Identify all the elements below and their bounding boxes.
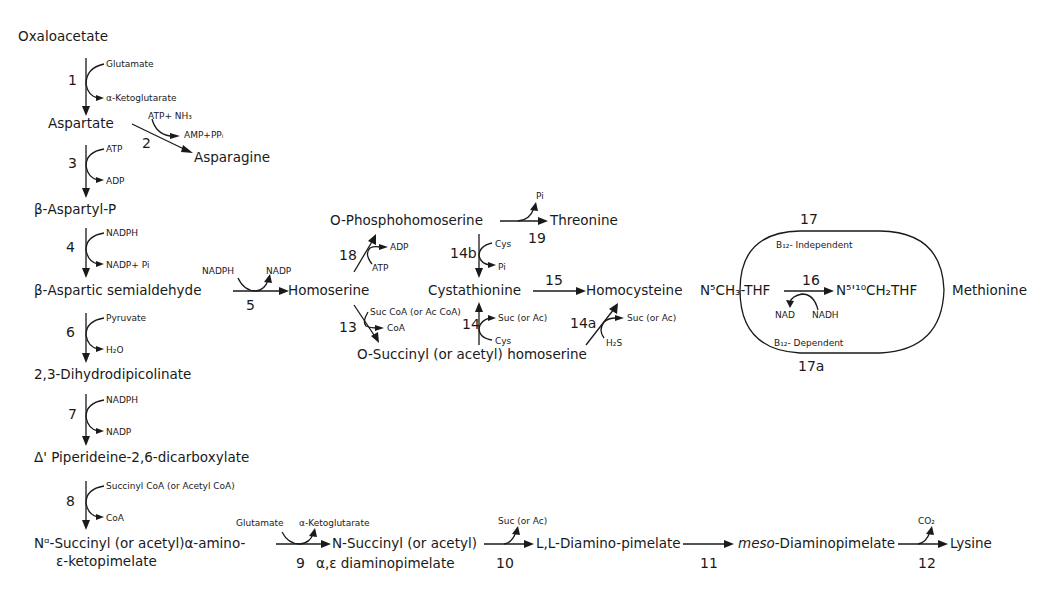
cofactor-pi-19: Pi [536, 191, 544, 201]
cofactor-suc-ac-14: Suc (or Ac) [498, 313, 547, 323]
reaction-number-16: 16 [802, 272, 820, 288]
cofactor-atp-3: ATP [106, 144, 123, 154]
label-b12-independent: B₁₂- Independent [776, 240, 853, 250]
compound-ll-diaminopimelate: L,L-Diamino-pimelate [536, 535, 681, 551]
reaction-number-14: 14 [462, 316, 480, 332]
cofactor-cys-14: Cys [495, 336, 512, 346]
reaction-number-8: 8 [66, 493, 75, 509]
cofactor-h2s: H₂S [606, 338, 622, 348]
reaction-number-19: 19 [528, 230, 546, 246]
cofactor-suc-ac-10: Suc (or Ac) [498, 516, 547, 526]
reaction-4-arrow [82, 228, 104, 278]
compound-methylene-thf: N⁵'¹⁰CH₂THF [836, 282, 917, 298]
compound-aspartate: Aspartate [48, 115, 114, 131]
reaction-number-9: 9 [296, 555, 305, 571]
cofactor-atp-18: ATP [372, 263, 389, 273]
compound-homoserine: Homoserine [288, 282, 369, 298]
reaction-number-7: 7 [68, 406, 77, 422]
cofactor-glutamate-1: Glutamate [106, 59, 154, 69]
cofactor-nadp-pi-4: NADP+ Pi [106, 260, 149, 270]
cofactor-atp-nh3: ATP+ NH₃ [148, 111, 192, 121]
reaction-number-17a: 17a [798, 358, 824, 374]
reaction-number-1: 1 [68, 72, 77, 88]
reaction-number-10: 10 [496, 555, 514, 571]
cofactor-coa-8: CoA [106, 513, 125, 523]
reaction-3-arrow [82, 145, 104, 198]
reaction-number-17: 17 [800, 211, 818, 227]
reaction-9-arrow [276, 528, 331, 548]
cofactor-ketoglutarate-1: α-Ketoglutarate [106, 93, 177, 103]
compound-methyl-thf: N⁵CH₃-THF [700, 282, 770, 298]
cofactor-suc-coa-13: Suc CoA (or Ac CoA) [370, 307, 461, 317]
compound-dihydrodipicolinate: 2,3-Dihydrodipicolinate [34, 366, 191, 382]
reaction-14b-arrow [475, 234, 496, 278]
compound-piperideine-dicarboxylate: Δ' Piperideine-2,6-dicarboxylate [34, 449, 249, 465]
cofactor-amp-ppi: AMP+PPᵢ [184, 130, 224, 140]
compound-succinyl-diaminopimelate-line2: α,ε diaminopimelate [316, 555, 455, 571]
compound-threonine: Threonine [549, 212, 618, 228]
reaction-number-5: 5 [246, 297, 255, 313]
cofactor-water: H₂O [106, 345, 123, 355]
reaction-number-13: 13 [339, 319, 357, 335]
cofactor-nadph-5: NADPH [202, 266, 234, 276]
compound-homocysteine: Homocysteine [586, 282, 682, 298]
reaction-15-arrow [533, 287, 586, 295]
reaction-12-arrow [898, 526, 948, 548]
reaction-19-arrow [500, 202, 548, 225]
meso-prefix: meso [738, 535, 775, 551]
cofactor-coa-13: CoA [387, 323, 406, 333]
reaction-1-arrow [82, 58, 104, 116]
reaction-number-2: 2 [142, 135, 151, 151]
reaction-number-18: 18 [339, 247, 357, 263]
reaction-10-arrow [484, 526, 534, 548]
cofactor-suc-ac-14a: Suc (or Ac) [627, 313, 676, 323]
compound-succinyl-amino-ketopimelate: Nᵅ-Succinyl (or acetyl)α-amino- [34, 535, 245, 551]
reaction-number-6: 6 [66, 324, 75, 340]
compound-aspartyl-phosphate: β-Aspartyl-P [34, 201, 116, 217]
cofactor-pyruvate: Pyruvate [106, 313, 147, 323]
reaction-16-arrow [784, 287, 834, 310]
cofactor-succinyl-coa: Succinyl CoA (or Acetyl CoA) [106, 481, 235, 491]
compound-succinyl-homoserine: O-Succinyl (or acetyl) homoserine [357, 346, 587, 362]
compound-succinyl-amino-ketopimelate-line2: ε-ketopimelate [56, 553, 157, 569]
cofactor-co2: CO₂ [918, 516, 935, 526]
compound-succinyl-diaminopimelate: N-Succinyl (or acetyl) [332, 535, 477, 551]
reaction-8-arrow [82, 481, 104, 530]
reaction-number-4: 4 [66, 239, 75, 255]
compound-cystathionine: Cystathionine [428, 282, 521, 298]
reaction-number-15: 15 [545, 272, 563, 288]
reaction-number-12: 12 [918, 555, 936, 571]
compound-methionine: Methionine [952, 282, 1027, 298]
reaction-number-14b: 14b [450, 245, 477, 261]
reaction-7-arrow [82, 394, 104, 446]
cofactor-ketoglutarate-9: α-Ketoglutarate [299, 518, 370, 528]
reaction-11-arrow [683, 540, 734, 548]
reaction-6-arrow [82, 313, 104, 363]
compound-lysine: Lysine [950, 535, 992, 551]
compound-aspartic-semialdehyde: β-Aspartic semialdehyde [34, 282, 201, 298]
cofactor-cys-14b: Cys [495, 239, 512, 249]
cofactor-nadph-4: NADPH [106, 228, 138, 238]
cofactor-nad: NAD [775, 310, 795, 320]
cofactor-nadph-7: NADPH [106, 395, 138, 405]
pathway-diagram: Oxaloacetate 1 Glutamate α-Ketoglutarate… [0, 0, 1043, 592]
cofactor-adp-18: ADP [390, 242, 409, 252]
cofactor-nadp-5: NADP [266, 266, 292, 276]
cofactor-glutamate-9: Glutamate [236, 518, 284, 528]
compound-asparagine: Asparagine [194, 149, 270, 165]
compound-phosphohomoserine: O-Phosphohomoserine [330, 212, 483, 228]
reaction-number-3: 3 [68, 155, 77, 171]
reaction-number-14a: 14a [570, 315, 596, 331]
label-b12-dependent: B₁₂- Dependent [774, 338, 844, 348]
reaction-5-arrow [233, 274, 289, 295]
cofactor-nadh: NADH [812, 310, 839, 320]
cofactor-nadp-7: NADP [106, 427, 132, 437]
compound-meso-diaminopimelate: meso-Diaminopimelate [738, 535, 895, 551]
reaction-number-11: 11 [700, 555, 718, 571]
meso-diaminopimelate-suffix: -Diaminopimelate [775, 535, 895, 551]
cofactor-adp-3: ADP [106, 176, 125, 186]
compound-oxaloacetate: Oxaloacetate [18, 28, 108, 44]
cofactor-pi-14b: Pi [498, 262, 506, 272]
